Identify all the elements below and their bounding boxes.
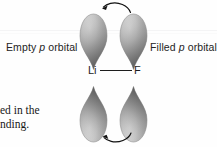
label-filled-prefix: Filled [150, 41, 179, 53]
label-filled-p-orbital: Filled p orbital [150, 41, 217, 53]
curved-arrow-bottom-icon [103, 133, 131, 142]
caption-line-2: nding. [0, 118, 80, 132]
bond-line [100, 70, 132, 71]
atom-label-lithium: Li [88, 64, 97, 76]
label-filled-suffix: orbital [185, 41, 217, 53]
orbital-overlap-figure: Empty p orbital Filled p orbital Li F ed… [0, 0, 217, 147]
molecule-label-group: Li F [0, 62, 217, 80]
curved-arrow-top-icon [102, 3, 131, 13]
caption-text-fragment: ed in the nding. [0, 104, 80, 131]
atom-label-fluorine: F [134, 64, 141, 76]
caption-line-1: ed in the [0, 104, 80, 118]
label-empty-p-orbital: Empty p orbital [6, 41, 78, 53]
label-empty-suffix: orbital [45, 41, 77, 53]
label-empty-prefix: Empty [6, 41, 39, 53]
